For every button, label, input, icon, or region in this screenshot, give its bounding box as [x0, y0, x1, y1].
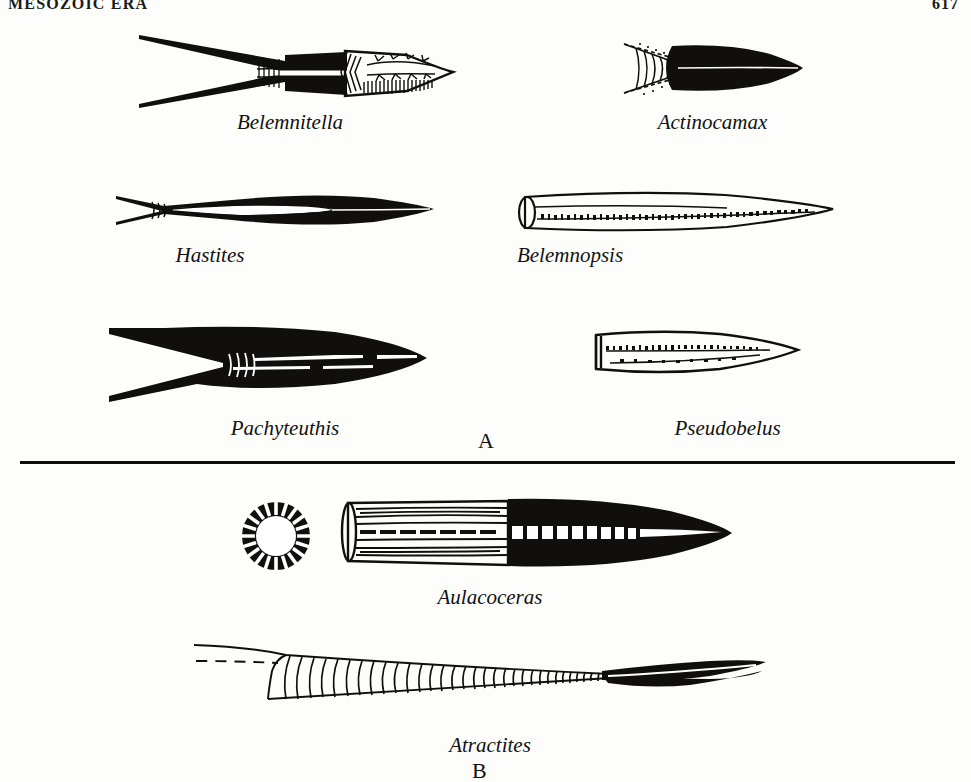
specimen-illustration-actinocamax [620, 38, 810, 100]
caption-actinocamax: Actinocamax [540, 110, 885, 135]
panel-label-a: A [478, 428, 494, 454]
specimen-illustration-atractites [190, 635, 790, 715]
caption-belemnopsis: Belemnopsis [440, 243, 700, 268]
specimen-illustration-pachyteuthis [105, 322, 435, 407]
specimen-illustration-belemnopsis [515, 185, 855, 240]
caption-aulacoceras: Aulacoceras [330, 585, 650, 610]
specimen-illustration-pseudobelus [590, 325, 810, 380]
panel-label-b: B [472, 758, 487, 782]
folio-page-number: 617 [932, 0, 959, 13]
running-head: MESOZOIC ERA [8, 0, 148, 13]
specimen-cross-section-aulacoceras [237, 497, 315, 575]
caption-pseudobelus: Pseudobelus [610, 416, 845, 441]
figure-page: MESOZOIC ERA 617 [0, 0, 971, 782]
specimen-illustration-belemnitella [135, 25, 465, 120]
caption-hastites: Hastites [0, 243, 420, 268]
specimen-illustration-hastites [112, 178, 442, 240]
caption-belemnitella: Belemnitella [0, 110, 580, 135]
panel-divider [20, 461, 955, 464]
caption-atractites: Atractites [330, 733, 650, 758]
specimen-illustration-aulacoceras [340, 495, 740, 577]
